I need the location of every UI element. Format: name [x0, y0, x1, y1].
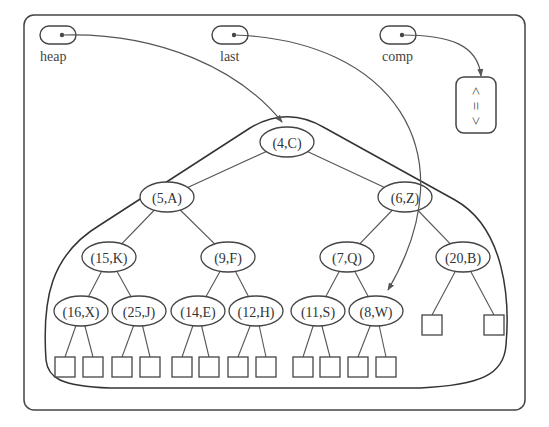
tree-node: (15,K) — [82, 242, 136, 272]
last-variable: last — [212, 26, 248, 64]
node-label: (6,Z) — [391, 191, 420, 207]
tree-node: (25,J) — [112, 296, 166, 326]
tree-node: (4,C) — [260, 127, 314, 157]
node-label: (9,F) — [214, 251, 242, 267]
node-label: (8,W) — [359, 305, 392, 321]
last-label: last — [220, 49, 240, 64]
external-leaf-node — [140, 357, 160, 377]
node-label: (7,Q) — [332, 251, 362, 267]
tree-node: (11,S) — [291, 296, 345, 326]
heap-diagram: (4,C)(5,A)(6,Z)(15,K)(9,F)(7,Q)(20,B)(16… — [0, 0, 549, 427]
external-leaf-node — [422, 315, 442, 335]
external-leaf-node — [376, 357, 396, 377]
heap-variable: heap — [40, 26, 76, 64]
diagram-canvas: (4,C)(5,A)(6,Z)(15,K)(9,F)(7,Q)(20,B)(16… — [0, 0, 549, 427]
external-leaf-node — [228, 357, 248, 377]
tree-edges — [81, 142, 463, 311]
comparator-greater-than: > — [468, 117, 484, 125]
external-leaf-node — [293, 357, 313, 377]
node-label: (25,J) — [123, 305, 156, 321]
external-leaf-node — [199, 357, 219, 377]
tree-node: (6,Z) — [378, 182, 432, 212]
node-label: (15,K) — [91, 251, 128, 267]
leaf-boxes — [55, 315, 504, 377]
node-label: (16,X) — [63, 305, 100, 321]
tree-node: (8,W) — [349, 296, 403, 326]
comp-variable: comp — [380, 26, 416, 64]
tree-node: (9,F) — [201, 242, 255, 272]
outer-frame — [24, 15, 525, 410]
comparator-box: < = > — [456, 77, 496, 133]
tree-node: (7,Q) — [320, 242, 374, 272]
node-label: (5,A) — [152, 191, 182, 207]
heap-label: heap — [40, 49, 66, 64]
external-leaf-node — [172, 357, 192, 377]
comp-label: comp — [382, 49, 413, 64]
tree-node: (14,E) — [171, 296, 225, 326]
external-leaf-node — [112, 357, 132, 377]
heap-pointer-arrow — [62, 35, 282, 122]
node-label: (14,E) — [180, 305, 216, 321]
external-leaf-node — [320, 357, 340, 377]
tree-node: (5,A) — [140, 182, 194, 212]
variable-cells: heaplastcomp — [40, 26, 416, 64]
external-leaf-node — [348, 357, 368, 377]
tree-node: (20,B) — [436, 242, 490, 272]
node-label: (12,H) — [238, 305, 275, 321]
comparator-equal: = — [468, 102, 484, 110]
external-leaf-node — [484, 315, 504, 335]
tree-node: (16,X) — [54, 296, 108, 326]
tree-node: (12,H) — [229, 296, 283, 326]
node-label: (20,B) — [445, 251, 482, 267]
node-label: (11,S) — [301, 305, 335, 321]
tree-nodes: (4,C)(5,A)(6,Z)(15,K)(9,F)(7,Q)(20,B)(16… — [54, 127, 490, 326]
node-label: (4,C) — [272, 136, 302, 152]
comparator-less-than: < — [468, 87, 484, 95]
external-leaf-node — [55, 357, 75, 377]
external-leaf-node — [256, 357, 276, 377]
external-leaf-node — [83, 357, 103, 377]
